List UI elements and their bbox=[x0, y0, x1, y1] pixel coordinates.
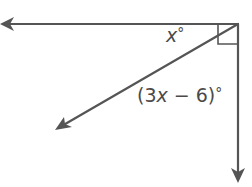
angle-label-x: x° bbox=[166, 26, 184, 45]
degree-symbol: ° bbox=[215, 85, 222, 101]
diagonal-ray bbox=[60, 24, 238, 127]
expr-open: (3 bbox=[137, 84, 157, 106]
var-x: x bbox=[157, 84, 168, 106]
diagonal-arrowhead-icon bbox=[55, 117, 72, 130]
expr-rest: − 6) bbox=[168, 84, 216, 106]
angle-label-3x-minus-6: (3x − 6)° bbox=[137, 86, 222, 105]
var-x: x bbox=[166, 24, 177, 46]
degree-symbol: ° bbox=[177, 25, 184, 41]
